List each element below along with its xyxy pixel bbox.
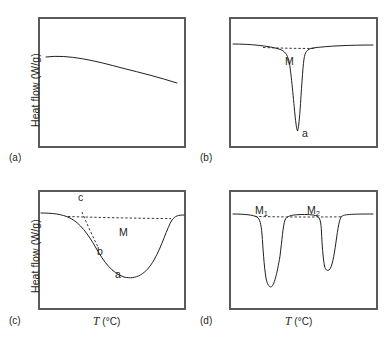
- panel-d-curve: [233, 214, 373, 287]
- panel-c-baseline-label-c: c: [78, 191, 83, 203]
- panel-a-curve: [46, 56, 177, 83]
- dsc-thermogram-figure: Heat flow (W/g) Heat flow (W/g) T (°C) T…: [0, 0, 392, 346]
- panel-c-area-label-M: M: [119, 226, 128, 238]
- panel-letter-c: (c): [9, 315, 21, 326]
- y-axis-label-top: Heat flow (W/g): [29, 53, 41, 127]
- x-axis-symbol: T: [285, 315, 291, 327]
- panel-b-onset-label-a: a: [302, 127, 308, 139]
- panel-b-baseline: [263, 48, 315, 49]
- panel-c-peak-label-a: a: [115, 268, 121, 280]
- panel-d-peak-label-M1: M1: [255, 204, 268, 216]
- panel-b-curve: [233, 44, 373, 131]
- panel-a-plot: [38, 17, 186, 148]
- panel-d: [229, 190, 378, 310]
- panel-letter-d: (d): [200, 315, 212, 326]
- panel-a: [38, 17, 186, 148]
- x-axis-unit: (°C): [102, 316, 120, 327]
- panel-c-baseline: [68, 217, 171, 219]
- panel-c-curve: [41, 213, 184, 278]
- panel-c: [38, 190, 186, 310]
- panel-d-peak-label-M1-sub: 1: [264, 209, 268, 218]
- x-axis-label-panel-c: T (°C): [93, 315, 120, 327]
- panel-b-peak-label-M: M: [285, 55, 294, 67]
- panel-d-peak-label-M2-base: M: [307, 204, 316, 216]
- y-axis-label-bottom: Heat flow (W/g): [29, 219, 41, 293]
- x-axis-label-panel-d: T (°C): [285, 315, 312, 327]
- panel-letter-a: (a): [9, 152, 21, 163]
- panel-c-plot: [38, 190, 186, 310]
- panel-d-peak-label-M2: M2: [307, 204, 320, 216]
- panel-d-peak-label-M1-base: M: [255, 204, 264, 216]
- panel-d-peak-label-M2-sub: 2: [316, 209, 320, 218]
- x-axis-unit: (°C): [294, 316, 312, 327]
- panel-letter-b: (b): [200, 152, 212, 163]
- panel-d-plot: [229, 190, 378, 310]
- panel-c-onset-label-b: b: [97, 245, 103, 257]
- x-axis-symbol: T: [93, 315, 99, 327]
